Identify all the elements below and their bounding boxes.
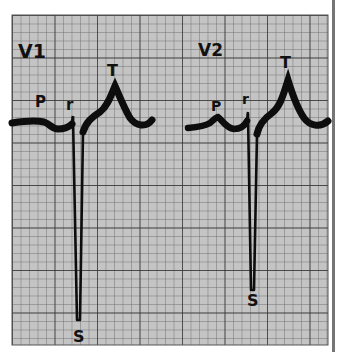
lead-label-v1: V1 xyxy=(18,40,46,62)
ecg-figure: V1 P r T S V2 P r T S xyxy=(0,0,338,352)
lead-label-v2: V2 xyxy=(198,40,223,60)
v2-s-label: S xyxy=(247,291,259,310)
v1-t-label: T xyxy=(107,61,118,80)
v1-s-label: S xyxy=(73,327,85,346)
v2-p-label: P xyxy=(211,98,221,114)
v2-r-label: r xyxy=(242,91,249,107)
v1-r-label: r xyxy=(66,96,74,114)
v1-p-label: P xyxy=(35,93,46,111)
page-edge-strip xyxy=(332,0,335,352)
v2-t-label: T xyxy=(280,53,291,72)
